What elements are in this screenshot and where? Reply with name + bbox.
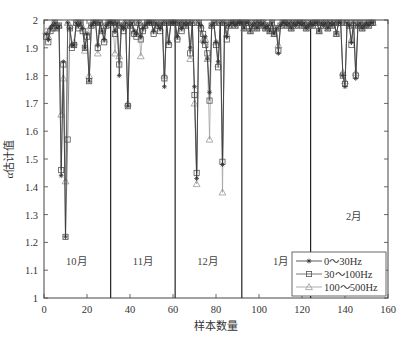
x-tick-label: 100 bbox=[251, 304, 267, 315]
x-tick-label: 140 bbox=[337, 304, 353, 315]
asterisk-marker-icon bbox=[278, 23, 283, 28]
series-triangle bbox=[43, 19, 377, 195]
asterisk-marker-icon bbox=[285, 23, 290, 28]
asterisk-marker-icon bbox=[117, 73, 122, 78]
asterisk-marker-icon bbox=[166, 40, 171, 45]
asterisk-marker-icon bbox=[55, 26, 60, 31]
y-axis-label: α估计值 bbox=[3, 140, 15, 179]
asterisk-marker-icon bbox=[254, 26, 259, 31]
asterisk-marker-icon bbox=[214, 40, 219, 45]
asterisk-marker-icon bbox=[317, 29, 322, 34]
asterisk-marker-icon bbox=[360, 26, 365, 31]
asterisk-marker-icon bbox=[220, 162, 225, 167]
asterisk-marker-icon bbox=[347, 23, 352, 28]
asterisk-marker-icon bbox=[179, 26, 184, 31]
legend-entry-label: 100～500Hz bbox=[324, 282, 378, 293]
month-label: 12月 bbox=[197, 256, 218, 267]
y-tick-label: 1 bbox=[33, 293, 38, 304]
y-tick-label: 1.5 bbox=[25, 154, 38, 165]
asterisk-marker-icon bbox=[289, 26, 294, 31]
alpha-estimate-chart: 02040608010012014016011.11.21.31.41.51.6… bbox=[0, 0, 408, 343]
asterisk-marker-icon bbox=[307, 259, 312, 264]
asterisk-marker-icon bbox=[201, 40, 206, 45]
asterisk-marker-icon bbox=[158, 26, 163, 31]
asterisk-marker-icon bbox=[184, 23, 189, 28]
x-tick-label: 120 bbox=[294, 304, 310, 315]
asterisk-marker-icon bbox=[87, 79, 92, 84]
asterisk-marker-icon bbox=[76, 23, 81, 28]
asterisk-marker-icon bbox=[80, 26, 85, 31]
x-tick-label: 40 bbox=[125, 304, 136, 315]
legend-entry-label: 0～30Hz bbox=[324, 256, 362, 267]
asterisk-marker-icon bbox=[121, 26, 126, 31]
asterisk-marker-icon bbox=[100, 29, 105, 34]
asterisk-marker-icon bbox=[61, 59, 66, 64]
asterisk-marker-icon bbox=[209, 23, 214, 28]
asterisk-marker-icon bbox=[349, 40, 354, 45]
asterisk-marker-icon bbox=[263, 26, 268, 31]
asterisk-marker-icon bbox=[321, 23, 326, 28]
asterisk-marker-icon bbox=[143, 23, 148, 28]
asterisk-marker-icon bbox=[194, 176, 199, 181]
asterisk-marker-icon bbox=[175, 34, 180, 39]
asterisk-marker-icon bbox=[259, 23, 264, 28]
asterisk-marker-icon bbox=[82, 45, 87, 50]
month-label: 2月 bbox=[346, 211, 361, 222]
x-axis-label: 样本数量 bbox=[194, 319, 238, 332]
asterisk-marker-icon bbox=[125, 104, 130, 109]
asterisk-marker-icon bbox=[192, 84, 197, 89]
asterisk-marker-icon bbox=[138, 34, 143, 39]
asterisk-marker-icon bbox=[199, 23, 204, 28]
x-tick-label: 80 bbox=[211, 304, 222, 315]
asterisk-marker-icon bbox=[50, 23, 55, 28]
y-tick-label: 1.1 bbox=[25, 265, 38, 276]
asterisk-marker-icon bbox=[132, 29, 137, 34]
x-tick-label: 0 bbox=[41, 304, 46, 315]
asterisk-marker-icon bbox=[362, 23, 367, 28]
y-tick-label: 1.6 bbox=[25, 126, 38, 137]
asterisk-marker-icon bbox=[104, 23, 109, 28]
y-tick-label: 1.7 bbox=[25, 98, 38, 109]
asterisk-marker-icon bbox=[356, 23, 361, 28]
asterisk-marker-icon bbox=[334, 32, 339, 37]
asterisk-marker-icon bbox=[48, 26, 53, 31]
y-tick-label: 1.2 bbox=[25, 237, 38, 248]
asterisk-marker-icon bbox=[343, 84, 348, 89]
asterisk-marker-icon bbox=[248, 29, 253, 34]
y-tick-label: 2 bbox=[33, 15, 38, 26]
asterisk-marker-icon bbox=[102, 37, 107, 42]
asterisk-marker-icon bbox=[151, 29, 156, 34]
asterisk-marker-icon bbox=[310, 23, 315, 28]
x-tick-label: 60 bbox=[168, 304, 179, 315]
asterisk-marker-icon bbox=[330, 23, 335, 28]
month-label: 1月 bbox=[273, 256, 288, 267]
asterisk-marker-icon bbox=[63, 234, 68, 239]
asterisk-marker-icon bbox=[340, 73, 345, 78]
asterisk-marker-icon bbox=[207, 90, 212, 95]
asterisk-marker-icon bbox=[59, 173, 64, 178]
month-label: 11月 bbox=[133, 256, 153, 267]
x-tick-label: 160 bbox=[380, 304, 396, 315]
series-layer bbox=[43, 19, 377, 239]
asterisk-marker-icon bbox=[205, 57, 210, 62]
y-tick-label: 1.3 bbox=[25, 210, 38, 221]
asterisk-marker-icon bbox=[224, 34, 229, 39]
asterisk-marker-icon bbox=[216, 59, 221, 64]
asterisk-marker-icon bbox=[162, 84, 167, 89]
asterisk-marker-icon bbox=[95, 43, 100, 48]
asterisk-marker-icon bbox=[72, 43, 77, 48]
asterisk-marker-icon bbox=[306, 23, 311, 28]
asterisk-marker-icon bbox=[250, 23, 255, 28]
y-tick-label: 1.9 bbox=[25, 43, 38, 54]
asterisk-marker-icon bbox=[141, 26, 146, 31]
asterisk-marker-icon bbox=[67, 26, 72, 31]
asterisk-marker-icon bbox=[203, 34, 208, 39]
y-tick-label: 1.4 bbox=[25, 182, 39, 193]
asterisk-marker-icon bbox=[366, 23, 371, 28]
asterisk-marker-icon bbox=[353, 76, 358, 81]
asterisk-marker-icon bbox=[293, 23, 298, 28]
asterisk-marker-icon bbox=[89, 23, 94, 28]
asterisk-marker-icon bbox=[274, 26, 279, 31]
asterisk-marker-icon bbox=[119, 23, 124, 28]
asterisk-marker-icon bbox=[276, 51, 281, 56]
